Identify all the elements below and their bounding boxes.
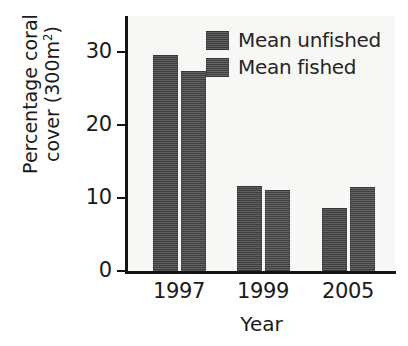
chart-figure: 0102030 199719992005 Year Percentage cor… xyxy=(0,0,408,346)
x-axis-line xyxy=(125,271,396,274)
y-axis-title-line-2: cover (300m2) xyxy=(42,0,64,219)
y-tick-mark xyxy=(117,197,126,199)
x-tick-label-1999: 1999 xyxy=(223,279,303,303)
y-axis-title: Percentage coral cover (300m2) xyxy=(20,0,64,219)
y-axis-title-line-2-prefix: cover (300m xyxy=(41,41,63,162)
legend: Mean unfished Mean fished xyxy=(206,28,381,82)
bar-1999-fished xyxy=(265,190,290,271)
legend-swatch-unfished-icon xyxy=(206,31,229,50)
y-tick-mark xyxy=(117,270,126,272)
y-tick-label: 10 xyxy=(86,187,112,208)
bar-1997-unfished xyxy=(153,55,178,271)
bar-1997-fished xyxy=(181,71,206,271)
bar-2005-fished xyxy=(350,187,375,271)
x-tick-label-2005: 2005 xyxy=(308,279,388,303)
y-tick-label: 0 xyxy=(99,260,112,281)
legend-item-fished: Mean fished xyxy=(206,55,381,79)
y-axis-line xyxy=(125,16,128,274)
legend-label-unfished: Mean unfished xyxy=(238,28,381,52)
legend-item-unfished: Mean unfished xyxy=(206,28,381,52)
y-axis-title-line-1: Percentage coral xyxy=(20,0,42,219)
y-tick-label: 30 xyxy=(86,41,112,62)
y-tick-mark xyxy=(117,51,126,53)
y-axis-title-line-2-suffix: ) xyxy=(41,26,63,33)
legend-swatch-fished-icon xyxy=(206,58,229,77)
y-tick-label: 20 xyxy=(86,114,112,135)
legend-label-fished: Mean fished xyxy=(238,55,356,79)
x-tick-label-1997: 1997 xyxy=(139,279,219,303)
y-tick-mark xyxy=(117,124,126,126)
bar-2005-unfished xyxy=(322,208,347,271)
bar-1999-unfished xyxy=(237,186,262,271)
y-axis-title-superscript: 2 xyxy=(41,33,55,41)
x-axis-title: Year xyxy=(128,312,395,336)
